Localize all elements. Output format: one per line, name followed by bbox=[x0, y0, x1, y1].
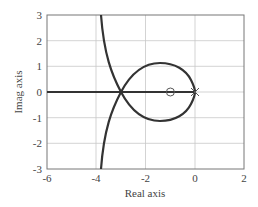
svg-text:3: 3 bbox=[37, 9, 43, 21]
svg-text:-2: -2 bbox=[141, 172, 150, 184]
svg-text:-2: -2 bbox=[33, 137, 42, 149]
y-tick-labels: 3 2 1 0 -1 -2 -3 bbox=[33, 9, 43, 175]
svg-text:2: 2 bbox=[241, 172, 247, 184]
svg-text:1: 1 bbox=[37, 60, 43, 72]
svg-text:-4: -4 bbox=[91, 172, 101, 184]
svg-text:-3: -3 bbox=[33, 163, 43, 175]
locus-curves bbox=[47, 15, 195, 169]
y-axis-label: Imag axis bbox=[12, 70, 24, 113]
x-tick-labels: -6 -4 -2 0 2 bbox=[42, 172, 246, 184]
svg-text:2: 2 bbox=[37, 35, 43, 47]
svg-text:0: 0 bbox=[192, 172, 198, 184]
svg-text:0: 0 bbox=[37, 86, 43, 98]
svg-text:-6: -6 bbox=[42, 172, 52, 184]
x-axis-label: Real axis bbox=[125, 187, 166, 199]
root-locus-chart: -6 -4 -2 0 2 3 2 1 0 -1 -2 -3 Real axis … bbox=[0, 0, 258, 207]
svg-text:-1: -1 bbox=[33, 112, 42, 124]
